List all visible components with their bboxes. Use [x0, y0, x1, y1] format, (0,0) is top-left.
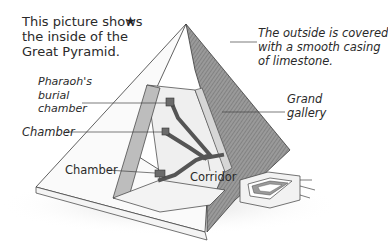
star-icon: ★	[125, 14, 136, 28]
label-corridor: Corridor	[190, 171, 237, 184]
kings-chamber	[166, 98, 174, 106]
queens-chamber	[162, 128, 169, 135]
label-chamber-lower: Chamber	[65, 164, 118, 177]
label-outside-casing: The outside is covered with a smooth cas…	[258, 26, 388, 68]
label-pharaohs-burial-chamber: Pharaoh's burial chamber	[38, 75, 92, 116]
label-chamber-middle: Chamber	[22, 126, 75, 139]
lower-chamber	[155, 170, 165, 177]
label-grand-gallery: Grand gallery	[287, 93, 326, 120]
